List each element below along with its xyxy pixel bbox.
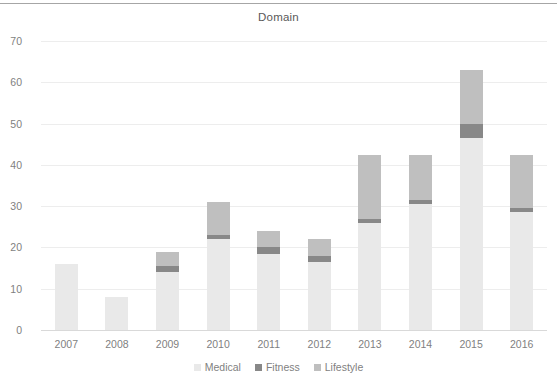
chart-title: Domain: [0, 11, 557, 23]
bar-segment-medical[interactable]: [460, 138, 483, 330]
y-axis-tick-label: 0: [0, 325, 22, 335]
bar-segment-lifestyle[interactable]: [308, 239, 331, 256]
bar-segment-medical[interactable]: [510, 212, 533, 330]
y-axis-tick-label: 50: [0, 119, 22, 129]
gridline-0: [41, 330, 547, 331]
x-axis-tick-label-2007: 2007: [41, 338, 92, 350]
bar-segment-fitness[interactable]: [156, 266, 179, 272]
x-axis-tick-label-2008: 2008: [92, 338, 143, 350]
y-axis-tick-label: 20: [0, 242, 22, 252]
legend-label: Lifestyle: [325, 361, 364, 373]
bar-segment-medical[interactable]: [156, 272, 179, 330]
bar-segment-medical[interactable]: [207, 239, 230, 330]
chart-legend: MedicalFitnessLifestyle: [0, 361, 557, 373]
bar-segment-medical[interactable]: [257, 254, 280, 330]
plot-area: 010203040506070: [41, 41, 547, 330]
bar-segment-lifestyle[interactable]: [156, 252, 179, 266]
gridline-70: [41, 41, 547, 42]
bar-segment-fitness[interactable]: [207, 235, 230, 239]
bar-segment-lifestyle[interactable]: [510, 155, 533, 209]
bar-segment-medical[interactable]: [55, 264, 78, 330]
legend-swatch-icon: [255, 364, 262, 371]
x-axis-tick-label-2016: 2016: [496, 338, 547, 350]
y-axis-tick-label: 30: [0, 201, 22, 211]
y-axis-tick-label: 70: [0, 36, 22, 46]
x-axis-tick-label-2013: 2013: [345, 338, 396, 350]
y-axis-tick-label: 60: [0, 77, 22, 87]
legend-label: Medical: [205, 361, 241, 373]
bar-segment-lifestyle[interactable]: [460, 70, 483, 124]
bar-segment-fitness[interactable]: [409, 200, 432, 204]
bar-segment-lifestyle[interactable]: [257, 231, 280, 248]
x-axis-tick-label-2011: 2011: [243, 338, 294, 350]
bar-segment-fitness[interactable]: [358, 219, 381, 223]
legend-swatch-icon: [314, 364, 321, 371]
legend-item-fitness[interactable]: Fitness: [255, 361, 300, 373]
legend-item-medical[interactable]: Medical: [194, 361, 241, 373]
bar-segment-medical[interactable]: [409, 204, 432, 330]
bar-segment-lifestyle[interactable]: [207, 202, 230, 235]
x-axis-tick-label-2009: 2009: [142, 338, 193, 350]
x-axis-tick-label-2012: 2012: [294, 338, 345, 350]
bar-segment-fitness[interactable]: [460, 124, 483, 138]
top-divider-rule: [0, 3, 557, 4]
x-axis-tick-label-2010: 2010: [193, 338, 244, 350]
bar-segment-medical[interactable]: [308, 262, 331, 330]
legend-label: Fitness: [266, 361, 300, 373]
bar-segment-medical[interactable]: [358, 223, 381, 330]
bar-segment-fitness[interactable]: [308, 256, 331, 262]
x-axis-tick-label-2015: 2015: [446, 338, 497, 350]
chart-container: Domain 010203040506070 20072008200920102…: [0, 0, 557, 383]
y-axis-tick-label: 10: [0, 284, 22, 294]
bar-segment-fitness[interactable]: [510, 208, 533, 212]
bar-segment-lifestyle[interactable]: [358, 155, 381, 219]
y-axis-tick-label: 40: [0, 160, 22, 170]
bar-segment-medical[interactable]: [105, 297, 128, 330]
bar-segment-lifestyle[interactable]: [409, 155, 432, 200]
bar-segment-fitness[interactable]: [257, 247, 280, 253]
x-axis-tick-label-2014: 2014: [395, 338, 446, 350]
legend-swatch-icon: [194, 364, 201, 371]
legend-item-lifestyle[interactable]: Lifestyle: [314, 361, 364, 373]
